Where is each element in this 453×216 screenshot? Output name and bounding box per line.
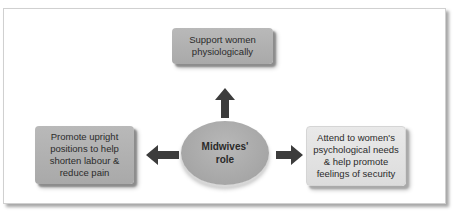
- arrow-up-icon: [215, 88, 235, 118]
- node-promote-upright-positions: Promote upright positions to help shorte…: [35, 126, 134, 184]
- center-label: Midwives' role: [202, 140, 249, 166]
- arrow-right-icon: [276, 145, 303, 165]
- node-support-physiologically: Support women physiologically: [172, 28, 273, 64]
- arrow-left-icon: [146, 145, 179, 165]
- node-label: Promote upright positions to help shorte…: [50, 131, 120, 179]
- node-label: Attend to women's psychological needs & …: [313, 132, 399, 180]
- node-psychological-needs: Attend to women's psychological needs & …: [306, 126, 406, 186]
- center-node-midwives-role: Midwives' role: [181, 121, 269, 185]
- node-label: Support women physiologically: [189, 34, 256, 58]
